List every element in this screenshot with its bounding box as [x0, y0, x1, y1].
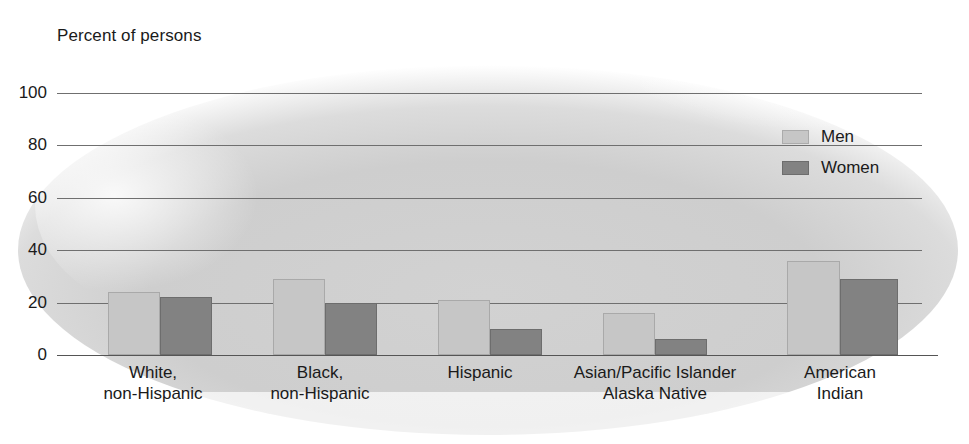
- x-label-asian-pacific-islander: Asian/Pacific Islander Alaska Native: [545, 362, 765, 404]
- legend-swatch-men-icon: [782, 130, 809, 144]
- gridline-40: [57, 250, 922, 251]
- legend: Men Women: [782, 121, 962, 183]
- legend-label-men: Men: [821, 128, 854, 145]
- bar-men-american-indian: [787, 261, 840, 355]
- x-label-american-indian: American Indian: [760, 362, 920, 404]
- bar-men-white-non-hispanic: [108, 292, 160, 355]
- y-tick-label: 100: [7, 84, 47, 101]
- y-axis-title: Percent of persons: [57, 26, 202, 46]
- bar-women-black-non-hispanic: [325, 303, 377, 355]
- bar-men-asian-pacific-islander: [603, 313, 655, 355]
- y-tick-label: 20: [7, 294, 47, 311]
- y-tick-label: 60: [7, 189, 47, 206]
- x-label-line: Indian: [760, 383, 920, 404]
- legend-item-women: Women: [782, 152, 962, 183]
- gridline-60: [57, 198, 922, 199]
- x-label-black-non-hispanic: Black, non-Hispanic: [225, 362, 415, 404]
- y-tick-label: 40: [7, 241, 47, 258]
- y-tick-label: 80: [7, 136, 47, 153]
- x-label-line: White,: [58, 362, 248, 383]
- legend-label-women: Women: [821, 159, 879, 176]
- gridline-100: [57, 93, 922, 94]
- bar-men-black-non-hispanic: [273, 279, 325, 355]
- x-label-white-non-hispanic: White, non-Hispanic: [58, 362, 248, 404]
- legend-swatch-women-icon: [782, 161, 809, 175]
- x-axis-tick-labels: White, non-Hispanic Black, non-Hispanic …: [0, 362, 969, 422]
- x-label-line: Black,: [225, 362, 415, 383]
- x-label-line: Hispanic: [400, 362, 560, 383]
- bar-women-white-non-hispanic: [160, 297, 212, 355]
- x-label-line: Asian/Pacific Islander: [545, 362, 765, 383]
- x-label-line: non-Hispanic: [225, 383, 415, 404]
- x-label-hispanic: Hispanic: [400, 362, 560, 383]
- x-label-line: non-Hispanic: [58, 383, 248, 404]
- bar-women-hispanic: [490, 329, 542, 355]
- axis-baseline: [57, 355, 938, 356]
- legend-item-men: Men: [782, 121, 962, 152]
- x-label-line: Alaska Native: [545, 383, 765, 404]
- bar-women-asian-pacific-islander: [655, 339, 707, 355]
- bar-women-american-indian: [840, 279, 898, 355]
- chart-container: Percent of persons 100 80 60 40 20 0 Whi…: [0, 0, 969, 444]
- y-tick-label: 0: [7, 346, 47, 363]
- y-axis-tick-labels: 100 80 60 40 20 0: [0, 93, 47, 355]
- bar-men-hispanic: [438, 300, 490, 355]
- x-label-line: American: [760, 362, 920, 383]
